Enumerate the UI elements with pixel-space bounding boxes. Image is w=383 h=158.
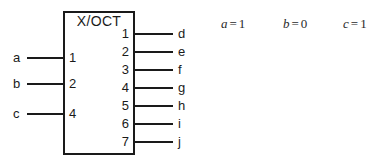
equation-b-variable: b: [283, 16, 290, 31]
input-wire-4: [27, 113, 65, 115]
output-signal-label-d: d: [178, 27, 192, 40]
input-pin-number-2: 2: [69, 77, 89, 90]
output-signal-label-e: e: [178, 45, 192, 58]
logic-symbol-diagram: X/OCT 1 a 2 b 4 c 1 d 2 e 3 f 4 g 5 h 6 …: [0, 0, 383, 158]
equation-b-operator: =: [290, 16, 301, 31]
input-pin-number-4: 4: [69, 107, 89, 120]
output-pin-number-3: 3: [109, 63, 129, 76]
signal-value-annotations: a=1 b=0 c=1: [218, 16, 380, 32]
output-pin-number-4: 4: [109, 81, 129, 94]
output-signal-label-g: g: [178, 81, 192, 94]
output-wire-6: [133, 123, 173, 125]
output-wire-5: [133, 105, 173, 107]
input-signal-label-b: b: [13, 77, 25, 90]
input-wire-1: [27, 57, 65, 59]
output-signal-label-i: i: [178, 117, 192, 130]
equation-c: c=1: [343, 16, 367, 31]
equation-c-value: 1: [360, 16, 367, 31]
output-wire-4: [133, 87, 173, 89]
output-pin-number-7: 7: [109, 135, 129, 148]
input-pin-number-1: 1: [69, 51, 89, 64]
equation-b: b=0: [283, 16, 307, 31]
equation-a-operator: =: [228, 16, 239, 31]
output-wire-1: [133, 33, 173, 35]
equation-b-value: 0: [301, 16, 308, 31]
equation-a: a=1: [221, 16, 245, 31]
equation-c-operator: =: [349, 16, 360, 31]
equation-a-variable: a: [221, 16, 228, 31]
output-pin-number-2: 2: [109, 45, 129, 58]
output-pin-number-1: 1: [109, 27, 129, 40]
input-signal-label-c: c: [13, 107, 25, 120]
output-signal-label-f: f: [178, 63, 192, 76]
output-pin-number-6: 6: [109, 117, 129, 130]
output-pin-number-5: 5: [109, 99, 129, 112]
input-wire-2: [27, 83, 65, 85]
equation-c-variable: c: [343, 16, 349, 31]
output-signal-label-h: h: [178, 99, 192, 112]
output-wire-2: [133, 51, 173, 53]
input-signal-label-a: a: [13, 51, 25, 64]
output-wire-7: [133, 141, 173, 143]
output-wire-3: [133, 69, 173, 71]
output-signal-label-j: j: [178, 135, 192, 148]
equation-a-value: 1: [239, 16, 246, 31]
